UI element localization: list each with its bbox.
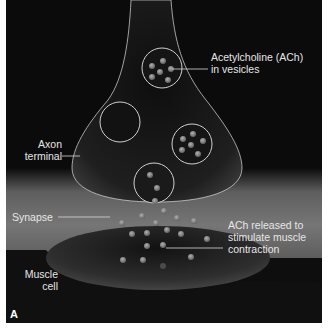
label-ach-vesicles-line2: in vesicles xyxy=(211,63,303,75)
label-ach-released-line2: stimulate muscle xyxy=(228,231,306,243)
label-muscle-cell-line2: cell xyxy=(25,280,58,292)
label-synapse: Synapse xyxy=(12,211,53,223)
label-axon-terminal: Axon terminal xyxy=(25,138,62,162)
vesicle-with-ach-top xyxy=(142,48,182,88)
label-ach-vesicles-line1: Acetylcholine (ACh) xyxy=(211,51,303,63)
label-axon-terminal-line1: Axon xyxy=(25,138,62,150)
label-ach-vesicles: Acetylcholine (ACh) in vesicles xyxy=(211,51,303,75)
vesicle-fusing xyxy=(134,163,174,204)
label-muscle-cell-line1: Muscle xyxy=(25,268,58,280)
vesicle-with-ach-right xyxy=(172,124,212,164)
label-synapse-text: Synapse xyxy=(12,211,53,223)
label-ach-released-line3: contraction xyxy=(228,243,306,255)
panel-label: A xyxy=(10,308,18,320)
label-muscle-cell: Muscle cell xyxy=(25,268,58,292)
vesicle-empty xyxy=(100,102,140,142)
label-ach-released-line1: ACh released to xyxy=(228,219,306,231)
label-axon-terminal-line2: terminal xyxy=(25,150,62,162)
neuromuscular-junction-diagram: Acetylcholine (ACh) in vesicles Axon ter… xyxy=(6,0,322,323)
label-ach-released: ACh released to stimulate muscle contrac… xyxy=(228,219,306,255)
